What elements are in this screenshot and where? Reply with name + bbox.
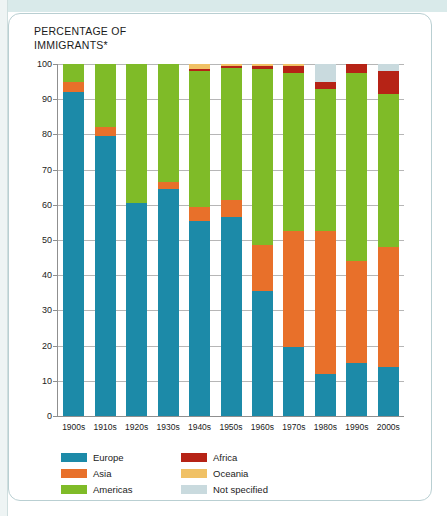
bar-1980s[interactable] — [315, 64, 336, 416]
bar-segment-2000s-europe[interactable] — [378, 367, 399, 416]
bar-segment-1910s-asia[interactable] — [95, 127, 116, 136]
bar-segment-1980s-asia[interactable] — [315, 231, 336, 374]
bar-segment-1930s-asia[interactable] — [158, 182, 179, 189]
bar-segment-1970s-oceania[interactable] — [283, 64, 304, 66]
page-top-band — [0, 0, 447, 12]
bar-segment-1970s-asia[interactable] — [283, 231, 304, 347]
bar-segment-1950s-europe[interactable] — [221, 217, 242, 416]
bar-segment-1910s-europe[interactable] — [95, 136, 116, 416]
bar-segment-1910s-americas[interactable] — [95, 64, 116, 127]
y-tick-mark-30 — [53, 310, 57, 311]
y-tick-label-90: 90 — [28, 94, 52, 104]
legend-swatch-icon — [181, 485, 207, 494]
legend-item-africa[interactable]: Africa — [181, 449, 289, 465]
y-tick-label-100: 100 — [28, 59, 52, 69]
bar-segment-1980s-europe[interactable] — [315, 374, 336, 416]
bar-segment-1960s-europe[interactable] — [252, 291, 273, 416]
x-tick-label-1940s: 1940s — [183, 422, 217, 432]
bar-segment-1960s-oceania[interactable] — [252, 64, 273, 66]
y-tick-label-70: 70 — [28, 165, 52, 175]
legend-swatch-icon — [181, 453, 207, 462]
bar-segment-1960s-asia[interactable] — [252, 245, 273, 291]
bar-segment-1940s-asia[interactable] — [189, 207, 210, 221]
legend-swatch-icon — [61, 485, 87, 494]
bar-segment-1990s-africa[interactable] — [346, 64, 367, 73]
bar-segment-1920s-americas[interactable] — [126, 64, 147, 203]
y-tick-label-50: 50 — [28, 235, 52, 245]
bar-1950s[interactable] — [221, 64, 242, 416]
bar-segment-2000s-not-specified[interactable] — [378, 64, 399, 71]
legend-label: Not specified — [213, 484, 268, 495]
x-tick-label-1970s: 1970s — [277, 422, 311, 432]
legend-item-not-specified[interactable]: Not specified — [181, 481, 289, 497]
x-tick-label-2000s: 2000s — [371, 422, 405, 432]
bar-segment-1900s-europe[interactable] — [63, 92, 84, 416]
bar-segment-1990s-americas[interactable] — [346, 73, 367, 261]
bar-segment-1960s-americas[interactable] — [252, 69, 273, 245]
bar-1920s[interactable] — [126, 64, 147, 416]
legend-item-oceania[interactable]: Oceania — [181, 465, 289, 481]
bar-segment-2000s-americas[interactable] — [378, 94, 399, 247]
legend-item-europe[interactable]: Europe — [61, 449, 169, 465]
bar-segment-1940s-americas[interactable] — [189, 71, 210, 207]
bar-segment-1970s-americas[interactable] — [283, 73, 304, 231]
y-tick-mark-50 — [53, 240, 57, 241]
legend-label: Asia — [93, 468, 111, 479]
bar-1990s[interactable] — [346, 64, 367, 416]
bar-segment-1950s-americas[interactable] — [221, 68, 242, 199]
y-tick-mark-0 — [53, 416, 57, 417]
bar-1960s[interactable] — [252, 64, 273, 416]
bar-segment-1920s-europe[interactable] — [126, 203, 147, 416]
bar-segment-1940s-europe[interactable] — [189, 221, 210, 416]
bar-segment-1940s-africa[interactable] — [189, 69, 210, 71]
legend-swatch-icon — [61, 453, 87, 462]
bar-segment-1970s-africa[interactable] — [283, 66, 304, 73]
bar-segment-1940s-oceania[interactable] — [189, 64, 210, 69]
bar-segment-1990s-asia[interactable] — [346, 261, 367, 363]
x-tick-label-1960s: 1960s — [245, 422, 279, 432]
bar-segment-1980s-americas[interactable] — [315, 89, 336, 232]
y-tick-label-20: 20 — [28, 341, 52, 351]
chart-legend: EuropeAfricaAsiaOceaniaAmericasNot speci… — [61, 449, 361, 497]
plot-area — [58, 64, 404, 416]
y-tick-mark-70 — [53, 170, 57, 171]
y-tick-mark-80 — [53, 134, 57, 135]
x-tick-label-1930s: 1930s — [151, 422, 185, 432]
gridline-0 — [58, 416, 404, 417]
bar-1940s[interactable] — [189, 64, 210, 416]
bar-1910s[interactable] — [95, 64, 116, 416]
bar-segment-1950s-africa[interactable] — [221, 66, 242, 68]
y-tick-mark-40 — [53, 275, 57, 276]
legend-item-americas[interactable]: Americas — [61, 481, 169, 497]
y-tick-label-40: 40 — [28, 270, 52, 280]
y-tick-label-80: 80 — [28, 129, 52, 139]
bar-segment-1900s-asia[interactable] — [63, 82, 84, 93]
legend-swatch-icon — [181, 469, 207, 478]
bar-segment-1900s-americas[interactable] — [63, 64, 84, 82]
y-tick-label-10: 10 — [28, 376, 52, 386]
legend-item-asia[interactable]: Asia — [61, 465, 169, 481]
x-tick-label-1980s: 1980s — [308, 422, 342, 432]
legend-label: Africa — [213, 452, 237, 463]
bar-segment-1970s-europe[interactable] — [283, 347, 304, 416]
bar-1930s[interactable] — [158, 64, 179, 416]
y-tick-mark-90 — [53, 99, 57, 100]
y-tick-mark-20 — [53, 346, 57, 347]
bar-segment-1950s-asia[interactable] — [221, 200, 242, 218]
y-tick-label-30: 30 — [28, 305, 52, 315]
bar-segment-2000s-asia[interactable] — [378, 247, 399, 367]
bar-segment-1960s-africa[interactable] — [252, 66, 273, 69]
bar-segment-1930s-europe[interactable] — [158, 189, 179, 416]
bar-2000s[interactable] — [378, 64, 399, 416]
page-left-edge — [0, 0, 8, 516]
bar-segment-2000s-africa[interactable] — [378, 71, 399, 94]
bar-1900s[interactable] — [63, 64, 84, 416]
bar-segment-1990s-europe[interactable] — [346, 363, 367, 416]
bar-segment-1950s-oceania[interactable] — [221, 64, 242, 66]
legend-label: Europe — [93, 452, 124, 463]
bar-segment-1930s-americas[interactable] — [158, 64, 179, 182]
y-tick-mark-10 — [53, 381, 57, 382]
bar-1970s[interactable] — [283, 64, 304, 416]
bar-segment-1980s-not-specified[interactable] — [315, 64, 336, 82]
bar-segment-1980s-africa[interactable] — [315, 82, 336, 89]
